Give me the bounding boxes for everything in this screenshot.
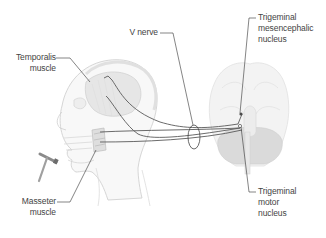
label-line: Trigeminal [258, 12, 313, 23]
brain-inferior-view-icon [209, 63, 288, 174]
label-temporalis-muscle: Temporalis muscle [6, 52, 56, 74]
label-line: muscle [6, 63, 56, 74]
label-line: Trigeminal [258, 186, 296, 197]
label-v-nerve: V nerve [118, 27, 158, 38]
label-line: muscle [6, 207, 56, 218]
label-trigeminal-motor-nucleus: Trigeminal motor nucleus [258, 186, 296, 219]
reflex-hammer-icon [39, 154, 59, 181]
label-line: V nerve [118, 27, 158, 38]
label-line: nucleus [258, 34, 313, 45]
head-profile-icon [57, 60, 157, 206]
label-line: Masseter [6, 196, 56, 207]
label-line: mesencephalic [258, 23, 313, 34]
label-trigeminal-mesencephalic-nucleus: Trigeminal mesencephalic nucleus [258, 12, 313, 45]
label-line: Temporalis [6, 52, 56, 63]
label-line: nucleus [258, 208, 296, 219]
label-line: motor [258, 197, 296, 208]
label-masseter-muscle: Masseter muscle [6, 196, 56, 218]
